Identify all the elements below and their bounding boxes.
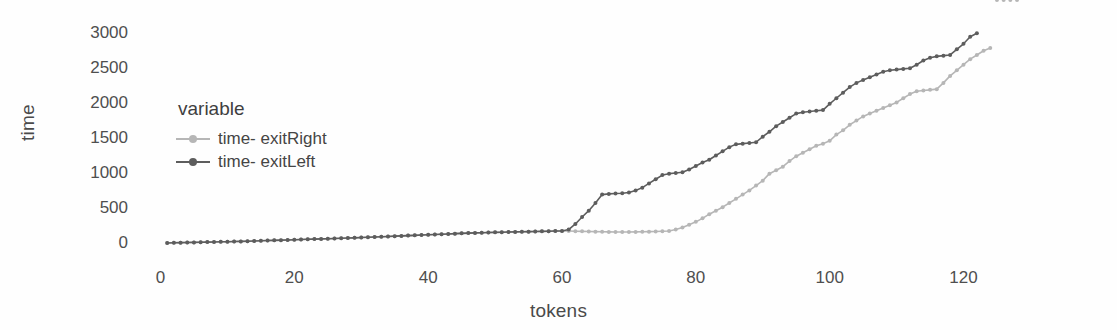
x-tick-label: 60 (532, 268, 592, 288)
chart-legend: variable time- exitRighttime- exitLeft (176, 98, 327, 173)
legend-entry-label: time- exitLeft (218, 152, 315, 172)
x-tick-label: 100 (800, 268, 860, 288)
legend-title: variable (178, 98, 327, 120)
y-tick-label: 500 (64, 198, 128, 218)
y-tick-label: 1000 (64, 163, 128, 183)
x-tick-label: 120 (934, 268, 994, 288)
x-tick-label: 40 (398, 268, 458, 288)
chart-container: time tokens 050010001500200025003000 020… (0, 0, 1117, 330)
x-axis-title: tokens (0, 300, 1117, 322)
y-tick-label: 3000 (64, 23, 128, 43)
legend-entry[interactable]: time- exitRight (176, 127, 327, 150)
legend-marker-icon (176, 133, 210, 145)
y-tick-label: 2000 (64, 93, 128, 113)
x-tick-label: 80 (666, 268, 726, 288)
x-tick-label: 20 (264, 268, 324, 288)
y-tick-label: 2500 (64, 58, 128, 78)
y-tick-label: 1500 (64, 128, 128, 148)
y-axis-title: time (17, 117, 39, 141)
legend-marker-icon (176, 156, 210, 168)
legend-entries: time- exitRighttime- exitLeft (176, 127, 327, 173)
legend-entry-label: time- exitRight (218, 129, 327, 149)
x-tick-label: 0 (131, 268, 191, 288)
y-tick-label: 0 (64, 233, 128, 253)
legend-entry[interactable]: time- exitLeft (176, 150, 327, 173)
